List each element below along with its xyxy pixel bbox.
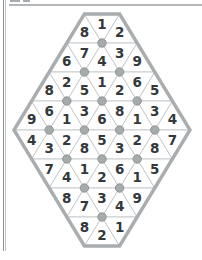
cell-number-r4c2: 6 [44,103,53,119]
cell-number-r2c4: 3 [115,45,124,61]
cell-number-r8c3: 1 [115,219,124,235]
grid-dot [80,184,88,192]
cell-number-r7c4: 4 [115,198,124,214]
cell-number-r8c1: 8 [80,219,89,235]
triangle-puzzle: 8126743982512659613681344328532877412615… [0,0,202,260]
grid-dot [98,213,106,221]
cell-number-r5c8: 8 [150,140,159,156]
cell-layer [14,14,190,246]
cell-number-r4c1: 9 [27,111,36,127]
grid-dot [80,126,88,134]
grid-dot [98,155,106,163]
cell-number-r2c2: 7 [80,45,89,61]
cell-number-r3c5: 2 [115,82,124,98]
cell-number-r2c5: 9 [132,53,141,69]
cell-number-r3c2: 2 [62,74,71,90]
cell-number-r1c1: 8 [80,24,89,40]
cell-number-r6c3: 1 [80,161,89,177]
cell-number-r3c1: 8 [44,82,53,98]
grid-dot [45,126,53,134]
cell-number-r5c7: 2 [132,132,141,148]
cell-number-r4c7: 1 [132,111,141,127]
grid-dot [115,126,123,134]
grid-dot [133,97,141,105]
cell-number-r3c3: 5 [80,82,89,98]
cell-number-r7c1: 8 [62,190,71,206]
grid-dot [98,39,106,47]
cell-number-r5c2: 3 [44,140,53,156]
grid-dot [80,68,88,76]
cell-number-r1c3: 2 [115,24,124,40]
cell-number-r6c5: 6 [115,161,124,177]
scanned-puzzle-page: 8126743982512659613681344328532877412615… [0,0,202,260]
cell-number-r7c2: 7 [80,198,89,214]
cell-number-r2c1: 6 [62,53,71,69]
cell-number-r5c5: 5 [97,132,106,148]
cell-number-r5c1: 4 [27,132,36,148]
cell-number-r5c6: 3 [115,140,124,156]
cell-number-r7c5: 9 [132,190,141,206]
grid-dot [63,155,71,163]
cell-number-r6c6: 1 [132,169,141,185]
cell-number-r3c6: 6 [132,74,141,90]
cell-number-r4c3: 1 [62,111,71,127]
cell-number-r6c7: 5 [150,161,159,177]
cell-number-r4c6: 8 [115,103,124,119]
cell-number-r4c8: 3 [150,103,159,119]
grid-dot [115,68,123,76]
grid-dot [151,126,159,134]
cell-number-r4c5: 6 [97,111,106,127]
grid-dot [133,155,141,163]
cell-number-r6c2: 4 [62,169,71,185]
cell-number-r6c4: 2 [97,169,106,185]
cell-number-r4c4: 3 [80,103,89,119]
cell-number-r1c2: 1 [97,16,106,32]
grid-dot [115,184,123,192]
grid-dot [63,97,71,105]
cell-number-r5c9: 7 [168,132,177,148]
cell-number-r4c9: 4 [168,111,177,127]
cell-number-r5c4: 8 [80,140,89,156]
cell-number-r6c1: 7 [44,161,53,177]
cell-number-r3c4: 1 [97,74,106,90]
cell-number-r7c3: 3 [97,190,106,206]
cell-number-r8c2: 2 [97,227,106,243]
cell-number-r2c3: 4 [97,53,106,69]
grid-dot [98,97,106,105]
cell-number-r3c7: 5 [150,82,159,98]
cell-number-r5c3: 2 [62,132,71,148]
